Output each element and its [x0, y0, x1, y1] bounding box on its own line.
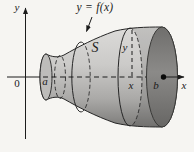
lower-bound-label-a: a — [42, 76, 48, 87]
curve-equation-label: y = f(x) — [77, 2, 114, 14]
diagram-canvas — [0, 0, 194, 152]
y-axis-label: y — [15, 2, 20, 13]
section-position-label-x: x — [129, 80, 134, 91]
x-axis-label: x — [182, 80, 187, 91]
upper-bound-label-b: b — [153, 80, 159, 91]
origin-label: 0 — [14, 78, 20, 89]
curve-pointer-arrow — [87, 17, 93, 32]
figure-solid-of-revolution: y y = f(x) 0 a S y x b x — [0, 0, 194, 152]
radius-label-y: y — [123, 42, 128, 53]
solid-name-label-S: S — [92, 41, 99, 55]
point-b-dot — [161, 74, 166, 79]
